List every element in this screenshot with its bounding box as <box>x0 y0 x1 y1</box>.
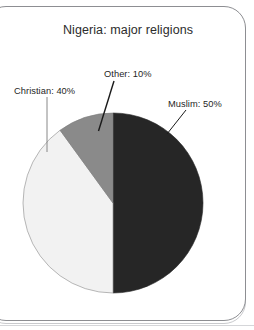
pie-slice-muslim <box>113 113 203 293</box>
chart-screenshot: Nigeria: major religions Christian: 40% … <box>0 0 254 330</box>
pie-label-christian: Christian: 40% <box>14 86 75 96</box>
pie-label-other: Other: 10% <box>104 69 152 79</box>
leader-line-muslim <box>167 110 186 134</box>
pie-label-muslim: Muslim: 50% <box>168 99 222 109</box>
pie-chart <box>0 0 254 330</box>
